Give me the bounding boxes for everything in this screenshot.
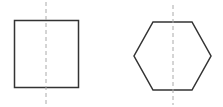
- square-figure: [15, 2, 79, 104]
- symmetry-diagram: [0, 0, 223, 107]
- hexagon-figure: [134, 5, 211, 105]
